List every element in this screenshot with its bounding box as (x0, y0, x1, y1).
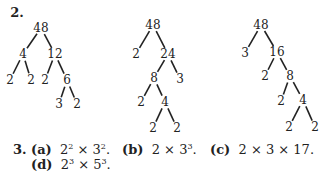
tree-edge (306, 106, 312, 120)
answer-c: (c) 2 × 3 × 17. (210, 143, 314, 157)
tree-node: 4 (299, 94, 307, 106)
tree-node: 16 (269, 46, 284, 58)
tree-node: 4 (161, 96, 169, 108)
tree-node: 2 (73, 98, 81, 110)
tree-edge (292, 106, 300, 121)
tree-edge (158, 60, 165, 72)
tree-edge (27, 34, 37, 48)
tree-node: 2 (132, 48, 140, 60)
tree-node: 6 (63, 74, 71, 86)
tree-node: 48 (253, 19, 268, 31)
tree-edge (156, 108, 162, 121)
tree-node: 2 (149, 122, 157, 134)
tree-edge (265, 31, 274, 46)
tree-node: 3 (241, 47, 249, 59)
tree-node: 2 (277, 95, 285, 107)
tree-edge (25, 61, 29, 74)
tree-edge (156, 31, 165, 48)
tree-node: 3 (176, 73, 184, 85)
tree-node: 2 (41, 74, 49, 86)
tree-node: 48 (33, 22, 48, 34)
tree-node: 12 (47, 48, 62, 60)
tree-edge (44, 34, 51, 48)
tree-node: 4 (19, 48, 27, 60)
tree-node: 2 (311, 121, 319, 133)
tree-edge (70, 86, 75, 97)
tree-node: 8 (286, 70, 294, 82)
tree-edge (58, 60, 64, 73)
tree-edge (48, 61, 53, 74)
tree-edge (268, 58, 274, 69)
tree-node: 48 (145, 19, 160, 31)
tree-edge (140, 31, 150, 48)
tree-node: 24 (160, 48, 175, 60)
problem-3-label: 3. (13, 143, 27, 157)
tree-node: 2 (261, 70, 269, 82)
tree-edge (283, 83, 287, 95)
tree-node: 2 (173, 122, 181, 134)
tree-node: 2 (27, 74, 35, 86)
tree-node: 2 (137, 96, 145, 108)
tree-edge (61, 87, 65, 98)
tree-edge (157, 84, 162, 95)
answer-b: (b) 2 × 33. (122, 143, 197, 157)
answer-a: (a) 22 × 32. (31, 143, 110, 157)
tree-edge (171, 60, 177, 72)
tree-node: 3 (55, 98, 63, 110)
answer-d: (d) 23 × 53. (31, 158, 111, 172)
tree-edge (168, 108, 174, 121)
tree-node: 2 (285, 121, 293, 133)
tree-edge (144, 84, 150, 96)
tree-node: 2 (6, 74, 14, 86)
tree-node: 8 (150, 72, 158, 84)
tree-edge (13, 60, 20, 73)
tree-edge (248, 31, 257, 47)
